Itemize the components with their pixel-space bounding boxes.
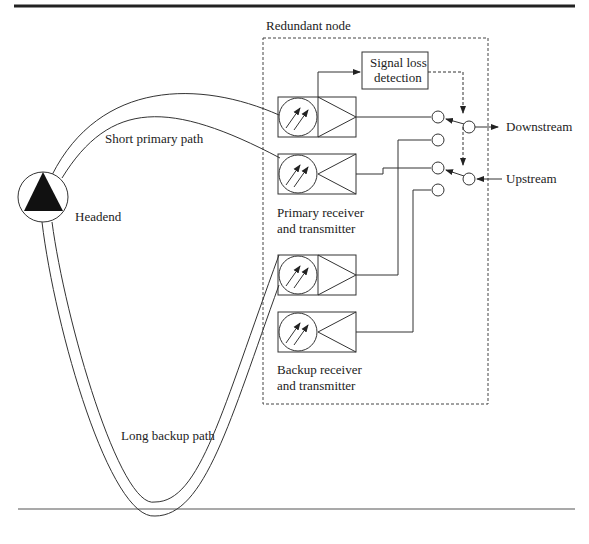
long-backup-label: Long backup path xyxy=(121,428,215,444)
backup-rx-1 xyxy=(278,255,356,295)
primary-tx-2 xyxy=(278,154,356,194)
backup-rt-label-2: and transmitter xyxy=(277,378,355,394)
fiber-paths xyxy=(42,94,280,517)
signal-loss-label-2: detection xyxy=(374,70,422,86)
short-primary-label: Short primary path xyxy=(105,131,203,147)
signal-loss-label-1: Signal loss xyxy=(370,55,427,71)
redundant-node-label: Redundant node xyxy=(266,18,351,34)
headend-label: Headend xyxy=(75,209,121,225)
primary-rt-label-2: and transmitter xyxy=(277,221,355,237)
headend-icon xyxy=(18,172,68,222)
primary-rx-1 xyxy=(278,97,356,137)
downstream-label: Downstream xyxy=(506,119,572,135)
network-diagram xyxy=(0,0,589,544)
backup-tx-2 xyxy=(278,312,356,352)
backup-rt-label-1: Backup receiver xyxy=(277,362,362,378)
primary-rt-label-1: Primary receiver xyxy=(277,205,364,221)
upstream-label: Upstream xyxy=(506,171,557,187)
